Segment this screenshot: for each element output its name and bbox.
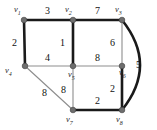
node-label-subscript: 1	[18, 10, 21, 16]
node-label-v3: v3	[115, 5, 122, 16]
graph-node-v2	[70, 17, 76, 23]
edge-weight-v2-v5: 1	[60, 38, 65, 48]
edge-weight-v4-v7: 8	[42, 88, 47, 98]
graph-node-v7	[70, 107, 76, 113]
node-label-subscript: 7	[70, 120, 73, 126]
edge-weight-v3-v6: 6	[110, 38, 115, 48]
node-label-v5: v5	[68, 70, 75, 81]
graph-node-v4	[22, 63, 28, 69]
graph-edge-v1-v4	[24, 20, 25, 66]
edge-weight-v1-v4: 2	[12, 38, 17, 48]
edge-weight-v6-v8: 2	[110, 84, 115, 94]
graph-node-v5	[70, 63, 76, 69]
node-label-v2: v2	[65, 5, 72, 16]
graph-node-v1	[21, 17, 27, 23]
node-label-subscript: 5	[72, 75, 75, 81]
graph-canvas	[0, 0, 157, 130]
edge-weight-v4-v5: 4	[45, 53, 50, 63]
node-label-v6: v6	[119, 68, 126, 79]
node-label-subscript: 6	[123, 73, 126, 79]
edge-weight-v5-v6: 8	[95, 53, 100, 63]
node-label-subscript: 4	[9, 71, 12, 77]
node-label-v8: v8	[116, 115, 123, 126]
node-label-v7: v7	[66, 115, 73, 126]
node-label-v1: v1	[14, 5, 21, 16]
edge-weight-v7-v8: 2	[95, 96, 100, 106]
node-label-subscript: 8	[120, 120, 123, 126]
graph-figure: v1v2v3v4v5v6v7v8 372164888225	[0, 0, 157, 130]
node-label-subscript: 2	[69, 10, 72, 16]
node-label-subscript: 3	[119, 10, 122, 16]
edge-weight-v2-v3: 7	[95, 6, 100, 16]
edge-weight-v5-v7: 8	[61, 85, 66, 95]
graph-node-v3	[119, 17, 125, 23]
node-label-v4: v4	[5, 66, 12, 77]
edge-weight-v1-v2: 3	[45, 6, 50, 16]
graph-node-v8	[119, 107, 125, 113]
edge-weight-v3-v8: 5	[136, 60, 141, 70]
